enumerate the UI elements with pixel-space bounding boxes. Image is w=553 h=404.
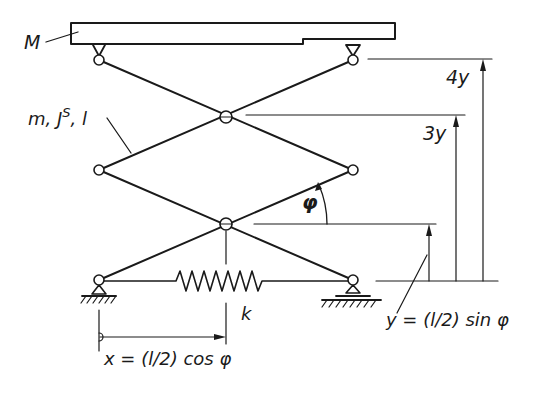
label-m: M bbox=[24, 31, 40, 53]
height-reference-lines bbox=[246, 59, 498, 281]
ground-support-left bbox=[81, 275, 116, 303]
spring-k bbox=[104, 271, 348, 291]
label-3y: 3y bbox=[423, 122, 447, 144]
pivot-top-left bbox=[94, 55, 104, 65]
label-angle-phi: φ bbox=[302, 190, 318, 214]
angle-arc bbox=[319, 185, 327, 224]
label-link-props: m, JS, l bbox=[28, 105, 87, 129]
leader-link-props bbox=[107, 118, 131, 153]
pivot-mid-left bbox=[94, 165, 104, 175]
pivot-mid-right bbox=[348, 165, 358, 175]
label-x-formula: x = (l/2) cos φ bbox=[103, 348, 231, 369]
label-y-formula: y = (l/2) sin φ bbox=[385, 309, 509, 330]
pivot-top-right bbox=[348, 55, 358, 65]
height-dimension-arrows bbox=[429, 67, 483, 281]
leader-y bbox=[397, 255, 427, 313]
ground-support-right bbox=[322, 275, 381, 307]
label-4y: 4y bbox=[446, 66, 470, 88]
leader-m bbox=[46, 32, 78, 42]
pivots bbox=[94, 55, 358, 230]
platform-m bbox=[71, 23, 395, 44]
scissor-lift-diagram: M m, JS, l k φ 4y 3y y = (l/2) sin φ x =… bbox=[0, 0, 553, 404]
label-spring-k: k bbox=[241, 303, 253, 324]
